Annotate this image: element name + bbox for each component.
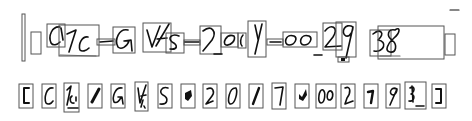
char-box: [88, 84, 102, 108]
glyph-00: [286, 36, 311, 45]
char-box: [432, 84, 446, 108]
char-box: [272, 83, 286, 109]
segment-box-bar: [22, 14, 25, 61]
segment-box-1: [248, 21, 266, 57]
segment-box-bracket-close: [445, 34, 455, 55]
glyph-1: [67, 30, 76, 52]
glyph-g: [117, 30, 132, 51]
char-box: [316, 84, 336, 108]
char-box: [203, 84, 217, 108]
segment-box-bracket-open: [31, 32, 41, 54]
top-row-line: [22, 10, 459, 62]
char-box: [405, 82, 426, 109]
glyph-2: [203, 28, 214, 51]
char-box: [181, 84, 195, 108]
char-box: [19, 84, 33, 108]
char-box: [364, 84, 378, 108]
char-box: [158, 84, 172, 108]
char-box: [64, 83, 79, 112]
segment-box-8: [378, 26, 444, 59]
char-box: [295, 84, 309, 108]
char-box: [341, 84, 355, 108]
char-box: [249, 84, 263, 108]
char-box: [226, 84, 240, 108]
bottom-row-characters: [19, 82, 446, 112]
char-box: [386, 84, 400, 108]
char-box: [135, 82, 148, 111]
glyph-c2: [79, 37, 89, 51]
glyph-8: [387, 29, 399, 52]
glyph-0: [224, 35, 234, 45]
glyph-9: [343, 26, 353, 58]
char-box: [111, 84, 125, 108]
char-box: [42, 84, 56, 108]
glyph-2b: [325, 27, 341, 47]
